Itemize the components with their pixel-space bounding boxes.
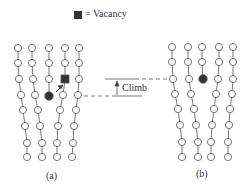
panel-b-label: (b) — [196, 168, 208, 179]
climb-label: Climb — [122, 82, 147, 93]
climb-lines — [56, 79, 170, 96]
diagram — [0, 0, 250, 190]
panel-a-label: (a) — [46, 170, 57, 181]
